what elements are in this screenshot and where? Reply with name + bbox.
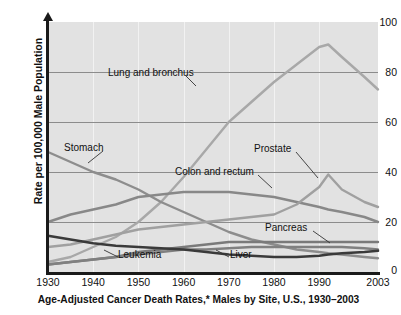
gridline-horizontal-80 — [48, 72, 378, 73]
y-tick-20: 20 — [355, 216, 397, 228]
y-axis-arrow — [43, 12, 53, 21]
series-label-colon-and-rectum: Colon and rectum — [175, 166, 254, 177]
y-tick-40: 40 — [355, 166, 397, 178]
gridline-horizontal-20 — [48, 222, 378, 223]
series-label-leukemia: Leukemia — [118, 249, 161, 260]
x-tick-1950: 1950 — [115, 276, 161, 288]
gridline-vertical-1950 — [138, 22, 139, 272]
y-axis-line — [46, 18, 49, 274]
gridline-vertical-1970 — [229, 22, 230, 272]
x-tick-1970: 1970 — [206, 276, 252, 288]
y-tick-0: 0 — [355, 264, 397, 276]
y-tick-100: 100 — [355, 16, 397, 28]
series-label-pancreas: Pancreas — [265, 222, 307, 233]
x-tick-1980: 1980 — [251, 276, 297, 288]
y-axis-title: Rate per 100,000 Male Population — [32, 21, 44, 221]
series-label-prostate: Prostate — [254, 143, 291, 154]
series-label-stomach: Stomach — [64, 142, 103, 153]
series-label-liver: Liver — [230, 249, 252, 260]
chart-caption: Age-Adjusted Cancer Death Rates,* Males … — [0, 294, 397, 305]
x-tick-1990: 1990 — [296, 276, 342, 288]
x-axis-line — [46, 272, 380, 275]
y-tick-80: 80 — [355, 66, 397, 78]
gridline-vertical-1990 — [319, 22, 320, 272]
gridline-horizontal-60 — [48, 122, 378, 123]
gridline-vertical-1960 — [184, 22, 185, 272]
y-tick-60: 60 — [355, 116, 397, 128]
x-tick-1960: 1960 — [161, 276, 207, 288]
x-tick-1940: 1940 — [70, 276, 116, 288]
series-label-lung-and-bronchus: Lung and bronchus — [108, 67, 194, 78]
x-tick-2003: 2003 — [355, 276, 401, 288]
x-tick-1930: 1930 — [25, 276, 71, 288]
